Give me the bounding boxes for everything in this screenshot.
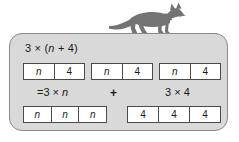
equation-left-term: =3 × n [37, 86, 68, 98]
plus-operator: + [110, 86, 117, 100]
cell-variable: n [24, 64, 55, 79]
equation-right-term: 3 × 4 [165, 86, 190, 98]
top-group-2: n 4 [91, 63, 153, 80]
cell-constant: 4 [128, 107, 159, 122]
figure-stage: 3 × (n + 4) n 4 n 4 n 4 =3 × n + 3 × 4 n… [0, 0, 239, 142]
cell-variable: n [92, 64, 123, 79]
cell-variable: n [24, 107, 52, 122]
cell-constant: 4 [159, 107, 190, 122]
distributive-property-panel: 3 × (n + 4) n 4 n 4 n 4 =3 × n + 3 × 4 n… [9, 33, 228, 131]
top-group-1: n 4 [23, 63, 85, 80]
cell-constant: 4 [191, 64, 221, 79]
expression-prefix: 3 × ( [25, 42, 48, 54]
left-term-variable: n [62, 86, 68, 98]
bottom-group-variables: n n n [23, 106, 107, 123]
cell-constant: 4 [55, 64, 85, 79]
cell-variable: n [79, 107, 106, 122]
expression-title: 3 × (n + 4) [25, 42, 78, 54]
cell-variable: n [160, 64, 191, 79]
fox-silhouette-icon [108, 1, 186, 35]
cell-constant: 4 [190, 107, 220, 122]
cell-constant: 4 [123, 64, 153, 79]
expression-suffix: + 4) [55, 42, 78, 54]
left-term-prefix: 3 × [43, 86, 62, 98]
top-group-3: n 4 [159, 63, 221, 80]
bottom-group-constants: 4 4 4 [127, 106, 221, 123]
cell-variable: n [52, 107, 80, 122]
